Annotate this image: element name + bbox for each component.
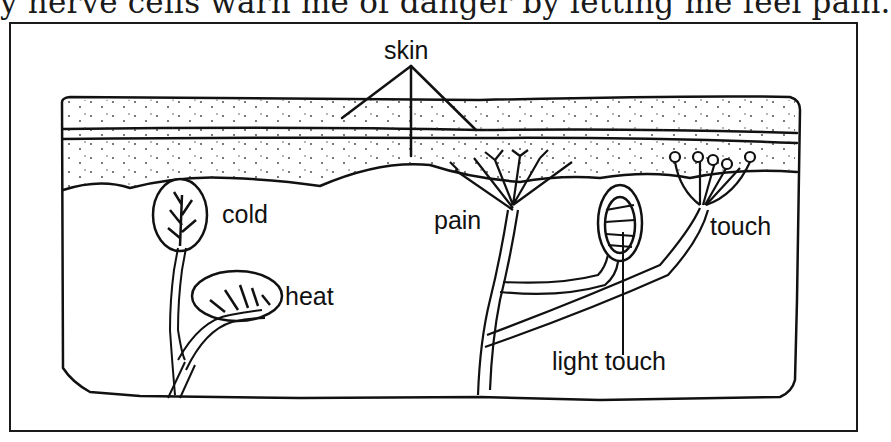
label-heat: heat [285,284,334,309]
label-cold: cold [222,202,268,227]
label-light-touch: light touch [552,349,666,374]
heat-receptor [168,271,282,398]
label-touch: touch [710,214,771,239]
label-skin: skin [384,38,428,63]
light-touch-receptor [598,185,642,355]
label-pain: pain [434,208,481,233]
